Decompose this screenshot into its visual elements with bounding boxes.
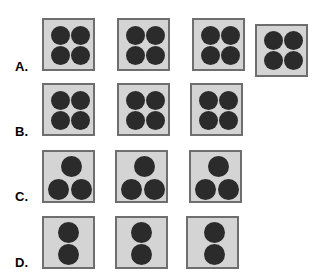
dot (126, 46, 145, 65)
dot (284, 31, 303, 50)
dot (195, 179, 216, 200)
dot (219, 111, 238, 130)
dot (146, 91, 165, 110)
row-label-c: C. (15, 190, 28, 203)
dot-tile (117, 18, 170, 71)
dot (71, 26, 90, 45)
dot (131, 222, 152, 243)
dot (204, 244, 225, 265)
dot (126, 26, 145, 45)
dot (146, 46, 165, 65)
dot (218, 179, 239, 200)
dot-tile (186, 216, 239, 269)
dot (284, 51, 303, 70)
dot (204, 222, 225, 243)
row-label-a: A. (15, 60, 28, 73)
dot (146, 26, 165, 45)
dot-tile (192, 18, 245, 71)
dot (219, 91, 238, 110)
dot (58, 244, 79, 265)
dot-tile (42, 216, 95, 269)
dot (71, 46, 90, 65)
dot (48, 179, 69, 200)
dot (201, 46, 220, 65)
dot (71, 179, 92, 200)
figure-canvas: A.B.C.D. (0, 0, 320, 280)
dot-tile (42, 150, 95, 203)
dot (264, 31, 283, 50)
row-label-b: B. (15, 125, 28, 138)
dot (144, 179, 165, 200)
dot (121, 179, 142, 200)
dot (51, 91, 70, 110)
dot (134, 156, 155, 177)
dot-tile (115, 216, 168, 269)
dot (58, 222, 79, 243)
dot (208, 156, 229, 177)
dot (51, 111, 70, 130)
row-label-d: D. (15, 256, 28, 269)
dot (61, 156, 82, 177)
dot-tile (42, 18, 95, 71)
dot (199, 111, 218, 130)
dot (126, 111, 145, 130)
dot (51, 26, 70, 45)
dot (146, 111, 165, 130)
dot-tile (255, 24, 308, 77)
dot (199, 91, 218, 110)
dot (126, 91, 145, 110)
dot-tile (115, 150, 168, 203)
dot (71, 91, 90, 110)
dot (71, 111, 90, 130)
dot (221, 26, 240, 45)
dot (221, 46, 240, 65)
dot-tile (189, 150, 242, 203)
dot-tile (42, 83, 95, 136)
dot (51, 46, 70, 65)
dot (201, 26, 220, 45)
dot-tile (190, 83, 243, 136)
dot-tile (117, 83, 170, 136)
dot (131, 244, 152, 265)
dot (264, 51, 283, 70)
